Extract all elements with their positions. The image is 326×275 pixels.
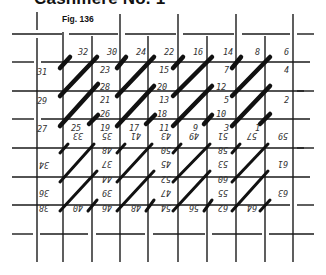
stitch-number: 4 [284, 65, 289, 75]
stitch-number-inverted: 58 [218, 145, 228, 155]
stitch-number-inverted: 59 [278, 131, 288, 141]
stitch-numbers-inverted: 3335414349515759485058343745536144526036… [39, 131, 288, 213]
stitch-number-inverted: 35 [102, 131, 113, 141]
stitch-number-inverted: 57 [246, 131, 257, 141]
stitch-number-inverted: 43 [161, 131, 171, 141]
stitch-number: 23 [100, 65, 110, 75]
stitch-number-inverted: 55 [218, 188, 228, 198]
stitch-number-inverted: 54 [161, 203, 171, 213]
stitch-number: 27 [37, 124, 48, 134]
stitch-number-inverted: 61 [278, 159, 288, 169]
stitch-number: 24 [136, 47, 146, 57]
stitch-number-inverted: 37 [101, 159, 113, 169]
stitch-number: 32 [77, 47, 88, 57]
stitch-number: 31 [36, 67, 47, 77]
stitch-number-inverted: 53 [218, 159, 228, 169]
stitch-number: 15 [159, 65, 169, 75]
stitch-number-inverted: 56 [189, 203, 199, 213]
stitch-number: 20 [157, 82, 167, 92]
stitch-number-inverted: 50 [161, 145, 171, 155]
stitch-number: 22 [164, 47, 174, 57]
stitch-number: 7 [224, 65, 230, 75]
stitch-number: 5 [224, 95, 229, 105]
stitch-number: 6 [284, 47, 289, 57]
stitch-number: 28 [100, 82, 110, 92]
stitch-number-inverted: 46 [102, 203, 112, 213]
stitch-number: 10 [216, 109, 226, 119]
stitch-number: 2 [284, 95, 289, 105]
stitch-number: 30 [106, 47, 117, 57]
stitch-number-inverted: 36 [39, 188, 50, 198]
stitch-number-inverted: 60 [218, 174, 228, 184]
stitch-number: 14 [223, 47, 233, 57]
stitch-number: 21 [100, 95, 110, 105]
stitch-number-inverted: 40 [73, 203, 83, 213]
stitch-number-inverted: 33 [73, 131, 84, 141]
stitch-number: 8 [255, 47, 260, 57]
stitch-number-inverted: 45 [161, 159, 171, 169]
stitch-number-inverted: 34 [39, 160, 50, 170]
stitch-number-inverted: 51 [218, 131, 228, 141]
stitch-number-inverted: 38 [39, 203, 50, 213]
stitch-number: 18 [157, 109, 167, 119]
stitch-number: 16 [193, 47, 203, 57]
stitch-number-inverted: 64 [247, 203, 257, 213]
stitch-number-inverted: 41 [131, 131, 141, 141]
stitch-number: 29 [37, 96, 47, 106]
stitch-number-inverted: 48 [102, 145, 112, 155]
stitch-number-inverted: 48 [131, 203, 141, 213]
stitch-number-inverted: 39 [102, 188, 113, 198]
stitch-number: 26 [100, 109, 110, 119]
stitch-number: 12 [216, 82, 226, 92]
stitch-number: 13 [159, 95, 169, 105]
stitch-number-inverted: 47 [160, 188, 171, 198]
stitch-number-inverted: 62 [218, 203, 228, 213]
stitch-number-inverted: 63 [278, 188, 288, 198]
stitch-diagram: 3230242216148631231574282012292113522618… [0, 0, 326, 275]
stitch-number-inverted: 52 [161, 174, 171, 184]
stitch-number-inverted: 49 [189, 131, 199, 141]
stitch-number-inverted: 44 [102, 174, 112, 184]
